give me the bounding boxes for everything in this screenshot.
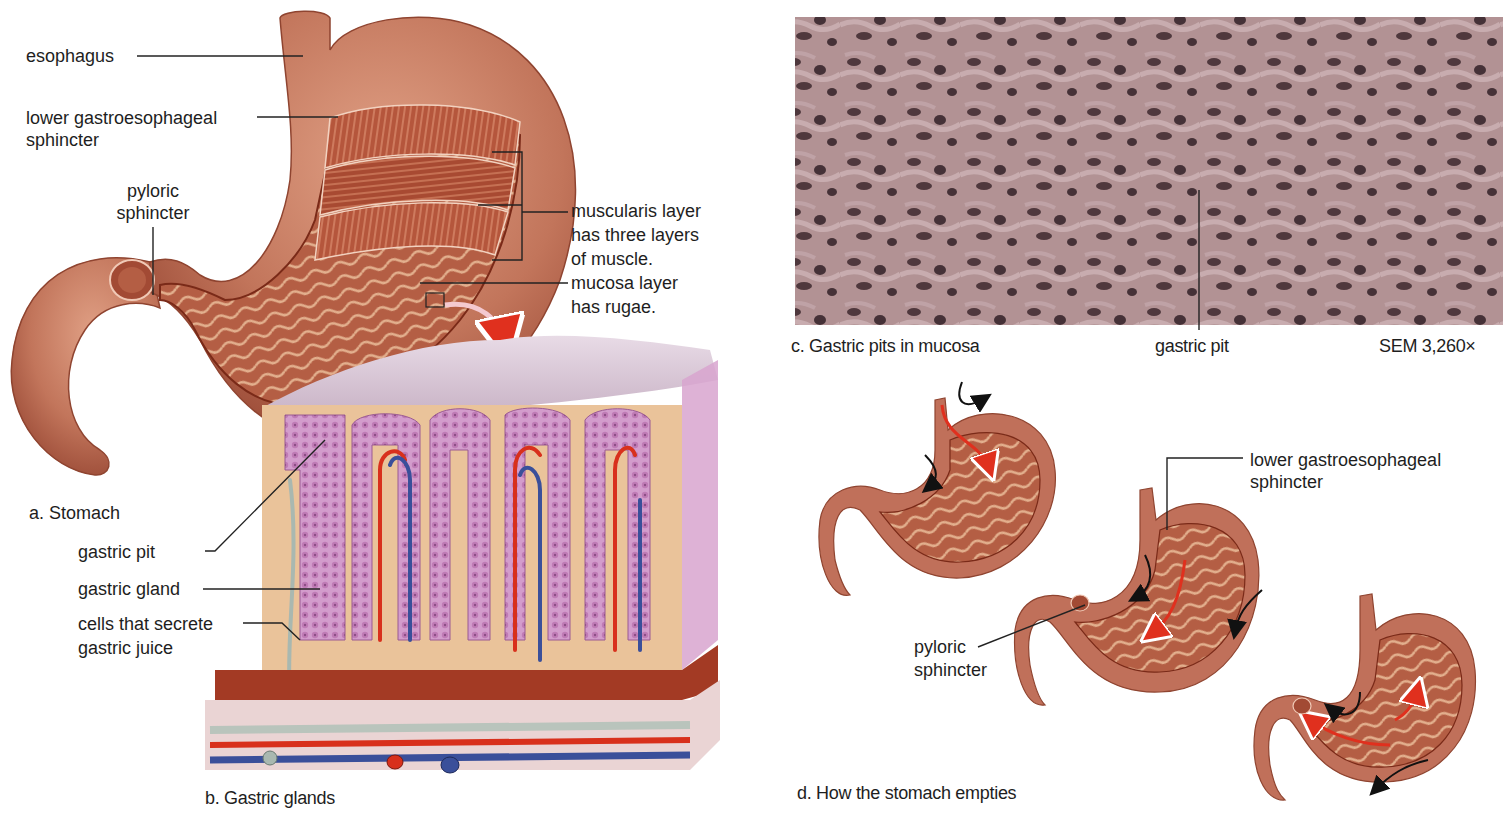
emptying-stage-3 bbox=[1254, 594, 1475, 800]
label-lower-gastroesophageal-sphincter: lower gastroesophageal sphincter bbox=[26, 107, 217, 151]
label-muscularis-layer: muscularis layer has three layers of mus… bbox=[571, 199, 701, 271]
label-secreting-cells: cells that secrete gastric juice bbox=[78, 612, 213, 660]
caption-panel-d: d. How the stomach empties bbox=[797, 782, 1016, 804]
label-pyloric-sphincter: pyloric sphincter bbox=[109, 180, 197, 224]
caption-panel-b: b. Gastric glands bbox=[205, 787, 335, 809]
label-gastric-pit-sem: gastric pit bbox=[1155, 335, 1229, 357]
caption-panel-a: a. Stomach bbox=[29, 502, 120, 524]
label-mucosa-layer: mucosa layer has rugae. bbox=[571, 271, 678, 319]
label-pyloric-sphincter-d: pyloric sphincter bbox=[914, 636, 987, 682]
caption-panel-c: c. Gastric pits in mucosa bbox=[791, 335, 980, 357]
figure-artwork bbox=[0, 0, 1509, 825]
label-gastric-gland: gastric gland bbox=[78, 578, 180, 600]
emptying-stage-1 bbox=[819, 382, 1055, 595]
label-gastric-pit: gastric pit bbox=[78, 541, 155, 563]
label-esophagus: esophagus bbox=[26, 45, 114, 67]
gastric-gland-block bbox=[205, 336, 720, 773]
emptying-stage-2 bbox=[1015, 488, 1262, 705]
label-lower-gastroesophageal-sphincter-d: lower gastroesophageal sphincter bbox=[1250, 449, 1441, 493]
sem-magnification: SEM 3,260× bbox=[1379, 335, 1476, 357]
